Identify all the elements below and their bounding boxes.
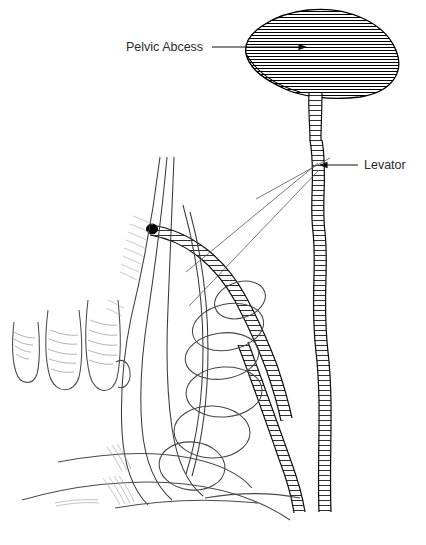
anatomy-illustration: Pelvic Abcess Levator [0, 0, 426, 545]
internal-opening-dot [147, 224, 158, 234]
abscess-neck-tract [309, 93, 322, 141]
label-levator-text: Levator [364, 158, 406, 172]
label-pelvic-abcess-text: Pelvic Abcess [126, 40, 203, 54]
diagram-root: Pelvic Abcess Levator [0, 0, 426, 545]
